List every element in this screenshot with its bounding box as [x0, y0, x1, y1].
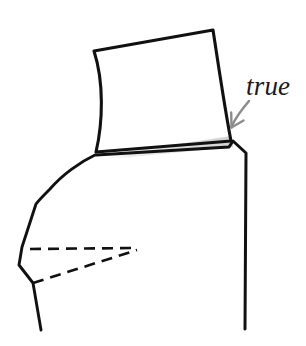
dart-upper-dashed-line: [30, 248, 137, 249]
annotation-label-true: true: [246, 73, 290, 100]
diagram-canvas: true: [0, 0, 306, 346]
dart-lower-dashed-line: [33, 250, 137, 283]
upper-panel-outline: [94, 30, 231, 152]
pattern-diagram-svg: [0, 0, 306, 346]
true-arrow-icon: [231, 101, 249, 128]
left-side-profile: [19, 155, 95, 330]
lower-panel-outline: [96, 141, 246, 329]
